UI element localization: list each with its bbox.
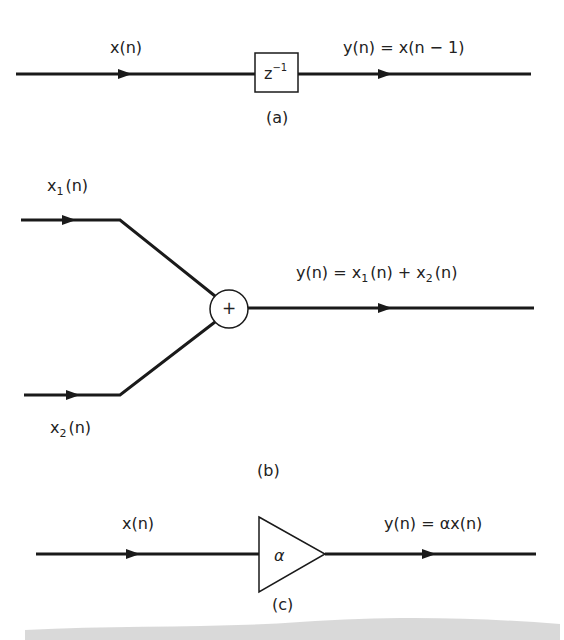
arrow-icon: [126, 549, 140, 559]
diagram-b-output-label: y(n) = x1(n) + x2(n): [296, 265, 457, 284]
diagram-a-output-label: y(n) = x(n − 1): [343, 40, 465, 56]
gain-alpha-symbol: α: [274, 546, 285, 565]
diagram-a-input-label: x(n): [110, 40, 142, 56]
diagram-c-input-label: x(n): [122, 516, 154, 532]
diagram-c-caption: (c): [272, 595, 293, 614]
diagram-c-output-label: y(n) = αx(n): [384, 516, 482, 532]
adder-plus-icon: +: [222, 298, 236, 318]
arrow-icon: [378, 303, 392, 313]
diagram-b-input1-label: x1(n): [47, 178, 88, 197]
exponent: −1: [272, 62, 287, 73]
diagram-b-input2-label: x2(n): [50, 420, 91, 439]
diagram-canvas: [0, 0, 564, 640]
arrow-icon: [118, 69, 132, 79]
scan-smudge: [25, 618, 560, 640]
arrow-icon: [378, 69, 392, 79]
arrow-icon: [66, 390, 80, 400]
arrow-icon: [422, 549, 436, 559]
diagram-b-caption: (b): [257, 461, 280, 480]
diagram-a-caption: (a): [266, 108, 288, 127]
delay-block-label: z−1: [264, 62, 287, 83]
gain-triangle: [259, 517, 325, 592]
arrow-icon: [62, 215, 76, 225]
diagram-b-adder: [21, 215, 534, 400]
